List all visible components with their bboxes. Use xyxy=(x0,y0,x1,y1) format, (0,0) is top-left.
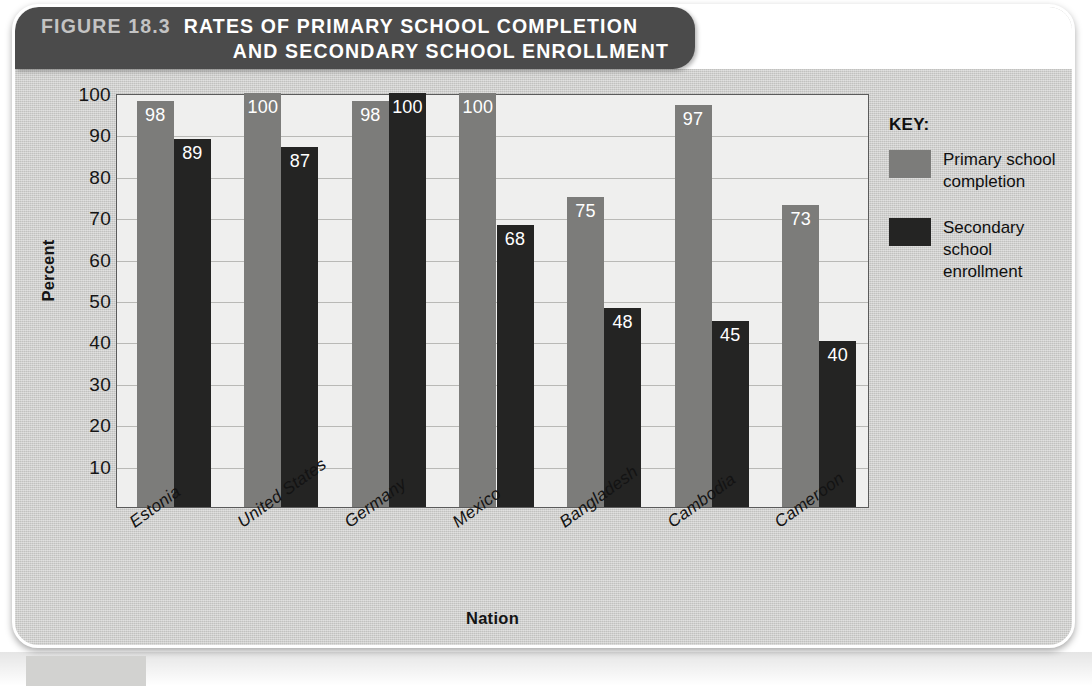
bar-rect: 97 xyxy=(675,105,712,507)
bar-rect: 100 xyxy=(244,93,281,507)
y-axis-tick-label: 80 xyxy=(89,167,111,186)
bar-value-label: 87 xyxy=(281,152,318,171)
scan-edge-block xyxy=(26,656,146,686)
bar-primary: 98 xyxy=(137,95,174,507)
bar-rect: 68 xyxy=(497,225,534,507)
bar-value-label: 48 xyxy=(604,313,641,332)
bar-rect: 75 xyxy=(567,197,604,508)
legend-swatch-icon xyxy=(889,150,931,178)
bar-rect: 98 xyxy=(137,101,174,507)
bar-value-label: 97 xyxy=(675,110,712,129)
figure-number: FIGURE 18.3 xyxy=(41,15,171,37)
legend-item: Primary school completion xyxy=(889,149,1069,193)
bar-value-label: 100 xyxy=(244,98,281,117)
bar-secondary: 48 xyxy=(604,95,641,507)
bar-value-label: 73 xyxy=(782,210,819,229)
y-axis-tick-label: 30 xyxy=(89,374,111,393)
bar-value-label: 98 xyxy=(352,106,389,125)
bar-rect: 100 xyxy=(389,93,426,507)
y-axis-tick-label: 60 xyxy=(89,250,111,269)
bar-rect: 73 xyxy=(782,205,819,507)
x-axis-tick-labels: EstoniaUnited StatesGermanyMexicoBanglad… xyxy=(116,510,869,620)
bar-secondary: 45 xyxy=(712,95,749,507)
bar-value-label: 40 xyxy=(819,346,856,365)
y-axis-tick-label: 20 xyxy=(89,416,111,435)
figure-title-line-2: AND SECONDARY SCHOOL ENROLLMENT xyxy=(41,39,673,64)
chart-region: Percent 102030405060708090100 9889100879… xyxy=(15,69,1075,648)
scan-edge-shadow xyxy=(0,652,1092,686)
y-axis-tick-label: 70 xyxy=(89,209,111,228)
legend-swatch-icon xyxy=(889,218,931,246)
y-axis-tick-label: 40 xyxy=(89,333,111,352)
bar-rect: 98 xyxy=(352,101,389,507)
bar-secondary: 100 xyxy=(389,95,426,507)
bar-value-label: 100 xyxy=(459,98,496,117)
bar-primary: 100 xyxy=(459,95,496,507)
bar-value-label: 89 xyxy=(174,144,211,163)
bar-rect: 89 xyxy=(174,139,211,507)
legend-item: Secondary school enrollment xyxy=(889,217,1069,283)
y-axis-tick-label: 50 xyxy=(89,292,111,311)
chart-legend: KEY: Primary school completionSecondary … xyxy=(889,115,1069,307)
figure-title-bar: FIGURE 18.3 RATES OF PRIMARY SCHOOL COMP… xyxy=(15,7,695,69)
y-axis-tick-label: 10 xyxy=(89,457,111,476)
figure-title-line-1: FIGURE 18.3 RATES OF PRIMARY SCHOOL COMP… xyxy=(41,14,673,39)
bar-primary: 98 xyxy=(352,95,389,507)
bar-rect: 100 xyxy=(459,93,496,507)
bar-secondary: 87 xyxy=(281,95,318,507)
bar-value-label: 98 xyxy=(137,106,174,125)
bar-value-label: 68 xyxy=(497,230,534,249)
legend-item-label: Primary school completion xyxy=(943,149,1069,193)
y-axis-tick-labels: 102030405060708090100 xyxy=(43,89,111,503)
bar-primary: 75 xyxy=(567,95,604,507)
bars-layer: 9889100879810010068754897457340 xyxy=(117,95,868,507)
figure-panel: FIGURE 18.3 RATES OF PRIMARY SCHOOL COMP… xyxy=(12,4,1075,648)
legend-items: Primary school completionSecondary schoo… xyxy=(889,149,1069,283)
bar-primary: 100 xyxy=(244,95,281,507)
legend-item-label: Secondary school enrollment xyxy=(943,217,1069,283)
bar-value-label: 100 xyxy=(389,98,426,117)
bar-rect: 87 xyxy=(281,147,318,507)
y-axis-tick-label: 90 xyxy=(89,126,111,145)
bar-secondary: 40 xyxy=(819,95,856,507)
x-axis-title: Nation xyxy=(116,609,869,628)
bar-primary: 73 xyxy=(782,95,819,507)
plot-area: 9889100879810010068754897457340 xyxy=(116,94,869,508)
figure-title-text-1: RATES OF PRIMARY SCHOOL COMPLETION xyxy=(184,15,638,37)
bar-value-label: 75 xyxy=(567,202,604,221)
y-axis-tick-label: 100 xyxy=(78,85,111,104)
bar-secondary: 68 xyxy=(497,95,534,507)
legend-title: KEY: xyxy=(889,115,1069,135)
bar-value-label: 45 xyxy=(712,326,749,345)
bar-secondary: 89 xyxy=(174,95,211,507)
bar-primary: 97 xyxy=(675,95,712,507)
